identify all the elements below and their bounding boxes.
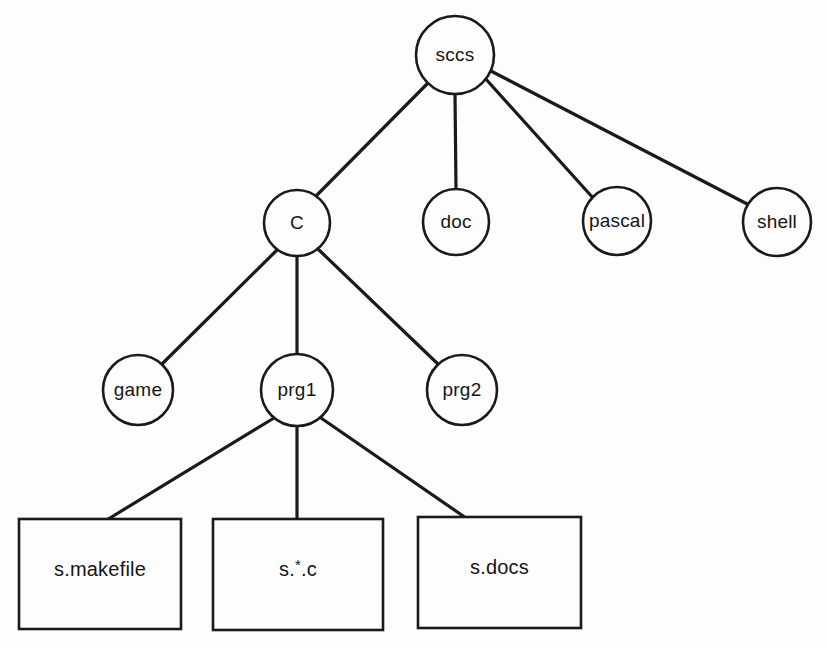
node-prg2-label: prg2 bbox=[443, 379, 482, 400]
node-s-star-c-rect[interactable] bbox=[213, 519, 383, 630]
node-s-makefile[interactable]: s.makefile bbox=[19, 519, 181, 629]
node-doc[interactable]: doc bbox=[423, 189, 489, 255]
node-s-star-c[interactable]: s.*.c bbox=[213, 519, 383, 630]
node-c[interactable]: C bbox=[264, 190, 330, 256]
node-s-makefile-label: s.makefile bbox=[54, 558, 146, 580]
node-s-docs-label: s.docs bbox=[470, 556, 529, 578]
edge-c-game bbox=[160, 250, 277, 366]
node-prg1[interactable]: prg1 bbox=[261, 354, 333, 426]
node-pascal[interactable]: pascal bbox=[583, 187, 651, 255]
edge-sccs-doc bbox=[455, 94, 456, 189]
tree-diagram: sccs C doc pascal shell game bbox=[0, 0, 826, 649]
node-prg1-label: prg1 bbox=[278, 379, 317, 400]
node-pascal-label: pascal bbox=[589, 210, 645, 231]
diagram-canvas: sccs C doc pascal shell game bbox=[0, 0, 826, 649]
edge-prg1-s-docs bbox=[321, 418, 466, 518]
node-shell[interactable]: shell bbox=[743, 188, 811, 256]
node-game[interactable]: game bbox=[103, 355, 173, 425]
edge-c-prg2 bbox=[319, 250, 440, 366]
node-s-docs[interactable]: s.docs bbox=[418, 517, 581, 628]
node-doc-label: doc bbox=[440, 211, 471, 232]
node-shell-label: shell bbox=[757, 211, 797, 232]
node-c-label: C bbox=[290, 212, 304, 233]
node-sccs-label: sccs bbox=[436, 44, 475, 65]
edge-prg1-s-makefile bbox=[105, 418, 274, 521]
node-game-label: game bbox=[114, 379, 162, 400]
node-prg2[interactable]: prg2 bbox=[427, 355, 497, 425]
node-sccs[interactable]: sccs bbox=[416, 16, 494, 94]
edge-sccs-c bbox=[316, 83, 428, 196]
edge-group bbox=[105, 70, 751, 521]
edge-sccs-shell bbox=[489, 70, 751, 206]
node-group: sccs C doc pascal shell game bbox=[19, 16, 811, 630]
